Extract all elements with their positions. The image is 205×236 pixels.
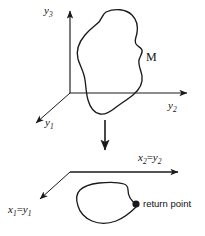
lower-axes-group <box>40 172 178 199</box>
manifold-label-m: M <box>146 51 157 63</box>
figure-canvas: y3 y2 y1 M x2=y2 x1=y1 return point <box>0 0 205 236</box>
return-point-label: return point <box>143 199 191 209</box>
return-map-loop-outline <box>77 182 137 223</box>
upper-axes-group <box>36 11 187 123</box>
axis-label-y1: y1 <box>45 117 54 128</box>
axis-label-x1-equals-y1: x1=y1 <box>8 204 32 215</box>
axis-x1-line <box>40 172 70 199</box>
axis-label-x2-equals-y2: x2=y2 <box>138 152 162 163</box>
return-point-dot <box>132 200 139 207</box>
axis-label-y3: y3 <box>44 5 53 16</box>
manifold-region-outline <box>77 10 142 115</box>
axis-label-y2: y2 <box>168 100 177 111</box>
